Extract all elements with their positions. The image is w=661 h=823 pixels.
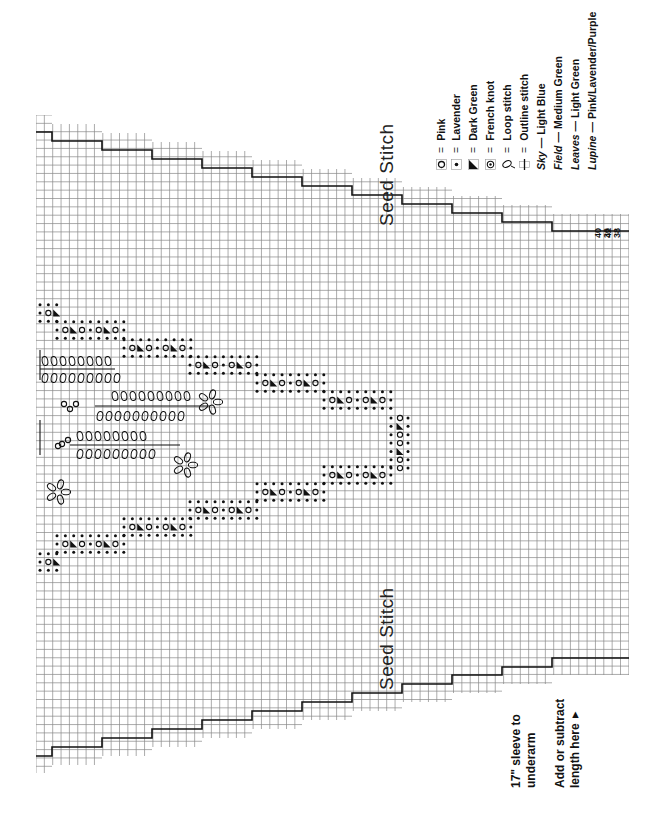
- legend-label: Pink: [435, 119, 447, 141]
- arrow-right-icon: ▲: [570, 707, 581, 722]
- legend-label: Lavender: [450, 94, 462, 141]
- legend-item-outline-stitch: = Outline stitch: [518, 74, 530, 170]
- legend-item-pink: = Pink: [435, 119, 447, 170]
- adjust-note-line2: length here: [568, 723, 582, 788]
- loop-stitch-icon: [502, 159, 513, 170]
- french-knot-icon: [485, 159, 496, 170]
- legend-color-lupine: Lupine—Pink/Lavender/Purple: [586, 12, 598, 170]
- legend-label: French knot: [484, 81, 496, 141]
- pink-circle-icon: [436, 159, 447, 170]
- legend-color-sky: Sky—Light Blue: [535, 83, 547, 170]
- seed-stitch-label-bottom: Seed Stitch: [376, 587, 398, 690]
- adjust-note-line1: Add or subtract: [553, 699, 568, 788]
- legend-color-leaves: Leaves—Light Green: [569, 59, 581, 170]
- legend-label: Outline stitch: [518, 74, 530, 141]
- legend-item-dark-green: = Dark Green: [467, 84, 479, 170]
- size-labels-2: 4238: [604, 228, 622, 238]
- dark-green-triangle-icon: [468, 159, 479, 170]
- legend-label: Loop stitch: [501, 84, 513, 141]
- seed-stitch-label-top: Seed Stitch: [376, 123, 398, 226]
- legend-item-french-knot: = French knot: [484, 81, 496, 170]
- size-38: 38: [612, 228, 622, 238]
- lavender-dot-icon: [451, 159, 462, 170]
- sleeve-note-line2: underarm: [524, 714, 539, 788]
- sleeve-note-line1: 17" sleeve to: [509, 714, 524, 788]
- legend-label: Dark Green: [467, 84, 479, 141]
- legend-item-lavender: = Lavender: [450, 94, 462, 170]
- legend-item-loop-stitch: = Loop stitch: [501, 84, 513, 170]
- outline-stitch-icon: [519, 159, 530, 170]
- sleeve-note: 17" sleeve to underarm: [509, 714, 539, 788]
- adjust-length-note: Add or subtract length here ▲: [553, 699, 583, 788]
- legend-color-field: Field—Medium Green: [552, 56, 564, 170]
